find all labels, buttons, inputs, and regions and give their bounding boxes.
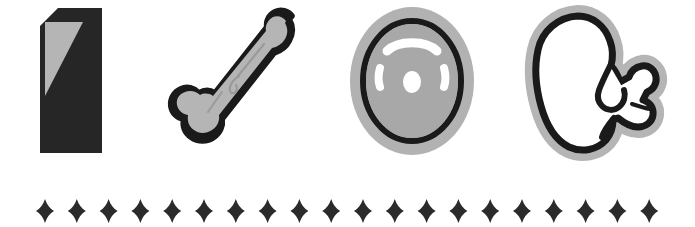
tombstone-glyph [14, 0, 126, 180]
divider-diamond [227, 199, 245, 223]
bone-fill [177, 16, 287, 133]
divider-diamond [545, 199, 563, 223]
divider-diamond [100, 199, 118, 223]
divider-diamond [195, 199, 213, 223]
divider-diamond [290, 199, 308, 223]
screenshot-canvas [0, 0, 695, 227]
fetus-body [536, 16, 656, 150]
bone-shape [171, 11, 292, 141]
bone-glyph [160, 0, 310, 180]
fetus-icon [514, 0, 674, 180]
ovum-highlight-right [444, 68, 446, 87]
bone-icon [160, 0, 310, 180]
divider-diamond [577, 199, 595, 223]
divider-diamond [640, 199, 658, 223]
divider-diamond [131, 199, 149, 223]
divider-diamond [449, 199, 467, 223]
divider-diamond [481, 199, 499, 223]
tombstone-icon [14, 0, 126, 180]
divider-diamond [608, 199, 626, 223]
fetus-glyph [514, 0, 674, 180]
ovum-icon [336, 0, 488, 180]
ovum-glyph [336, 0, 488, 180]
ovum-nucleus [403, 71, 421, 93]
divider-diamond [354, 199, 372, 223]
diamond-divider-glyphs [0, 180, 695, 227]
icon-row [0, 0, 695, 180]
ovum-highlight-left [379, 68, 381, 87]
divider-diamond [322, 199, 340, 223]
divider-diamond [386, 199, 404, 223]
diamond-divider [0, 180, 695, 227]
divider-diamond [513, 199, 531, 223]
divider-diamond [418, 199, 436, 223]
divider-diamond [163, 199, 181, 223]
divider-diamond [36, 199, 54, 223]
divider-diamond [68, 199, 86, 223]
divider-diamond [259, 199, 277, 223]
